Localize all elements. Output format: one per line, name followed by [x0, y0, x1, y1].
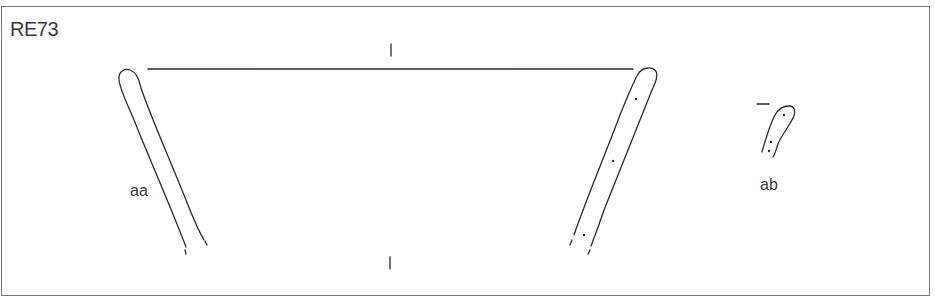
- right-break-outer: [570, 240, 572, 245]
- right-break-inner: [588, 250, 590, 254]
- left-break-outer: [185, 250, 186, 254]
- right-wall-profile: [574, 68, 657, 246]
- inclusion-dot: [583, 234, 585, 236]
- inclusion-dot: [770, 141, 772, 143]
- left-break-inner: [205, 241, 207, 245]
- inclusion-dot: [768, 150, 770, 152]
- fragment-profile: [762, 106, 795, 157]
- inclusion-dot: [612, 160, 614, 162]
- inclusion-dot: [783, 114, 785, 116]
- figure-ab-drawing: [757, 104, 795, 157]
- figure-aa-drawing: [119, 44, 657, 269]
- pottery-drawing: [0, 0, 935, 305]
- inclusion-dot: [635, 98, 637, 100]
- left-wall-profile: [119, 69, 204, 247]
